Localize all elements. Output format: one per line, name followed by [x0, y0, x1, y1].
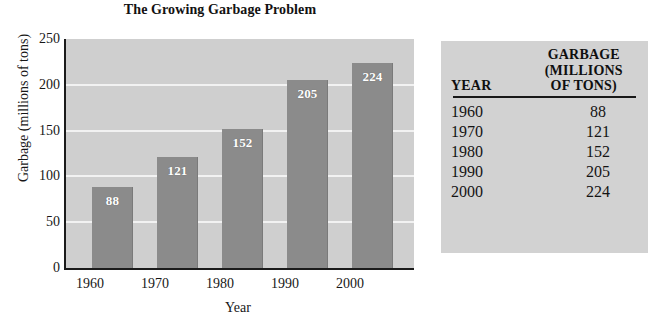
x-tick-label-1970: 1970	[120, 276, 190, 292]
garbage-data-table: YEAR GARBAGE (MILLIONS OF TONS) 1960 88 …	[441, 41, 648, 253]
x-tick-label-1990: 1990	[250, 276, 320, 292]
bar-chart-figure: The Growing Garbage Problem 250 200 150 …	[0, 0, 420, 325]
y-tick-label: 250	[4, 31, 60, 47]
column-header-garbage-line-3: OF TONS)	[530, 78, 638, 94]
x-tick-label-1980: 1980	[185, 276, 255, 292]
cell-value: 224	[558, 182, 638, 202]
table-row: 1960 88	[451, 102, 638, 122]
table: YEAR GARBAGE (MILLIONS OF TONS)	[451, 47, 638, 96]
x-axis-title: Year	[64, 300, 412, 316]
chart-title: The Growing Garbage Problem	[40, 2, 400, 18]
table-row: 2000 224	[451, 182, 638, 202]
cell-value: 205	[558, 162, 638, 182]
bar-1980[interactable]: 152	[222, 129, 263, 268]
cell-year: 1980	[451, 142, 558, 162]
y-tick-label: 200	[4, 77, 60, 93]
cell-value: 152	[558, 142, 638, 162]
header-divider	[453, 96, 636, 98]
table-row: 1990 205	[451, 162, 638, 182]
table-body: 1960 88 1970 121 1980 152 1990 205 2000	[451, 102, 638, 202]
cell-year: 1990	[451, 162, 558, 182]
table-row: 1980 152	[451, 142, 638, 162]
y-tick-label: 50	[4, 214, 60, 230]
column-header-garbage: GARBAGE (MILLIONS OF TONS)	[530, 47, 638, 96]
y-tick-label: 100	[4, 168, 60, 184]
table-row: 1970 121	[451, 122, 638, 142]
cell-year: 1960	[451, 102, 558, 122]
bar-value-label: 121	[157, 163, 198, 179]
column-header-garbage-line-1: GARBAGE	[530, 47, 638, 63]
bar-value-label: 205	[287, 86, 328, 102]
bar-1960[interactable]: 88	[92, 187, 133, 268]
bar-1990[interactable]: 205	[287, 80, 328, 268]
cell-year: 1970	[451, 122, 558, 142]
x-tick-label-2000: 2000	[315, 276, 385, 292]
y-tick-label: 0	[4, 260, 60, 276]
table-body-wrapper: 1960 88 1970 121 1980 152 1990 205 2000	[451, 102, 638, 202]
x-tick-label-1960: 1960	[55, 276, 125, 292]
bar-2000[interactable]: 224	[352, 63, 393, 268]
table-inner: YEAR GARBAGE (MILLIONS OF TONS) 1960 88 …	[441, 41, 648, 202]
cell-year: 2000	[451, 182, 558, 202]
bar-value-label: 88	[92, 193, 133, 209]
plot-area: 88 121 152 205 224	[64, 39, 414, 270]
bar-value-label: 152	[222, 135, 263, 151]
table-header-row: YEAR GARBAGE (MILLIONS OF TONS)	[451, 47, 638, 96]
bar-1970[interactable]: 121	[157, 157, 198, 268]
table-header: YEAR GARBAGE (MILLIONS OF TONS)	[451, 47, 638, 96]
bar-value-label: 224	[352, 69, 393, 85]
y-axis-title: Garbage (millions of tons)	[16, 0, 32, 218]
cell-value: 88	[558, 102, 638, 122]
cell-value: 121	[558, 122, 638, 142]
column-header-year: YEAR	[451, 47, 530, 96]
y-tick-label: 150	[4, 123, 60, 139]
column-header-garbage-line-2: (MILLIONS	[530, 63, 638, 79]
